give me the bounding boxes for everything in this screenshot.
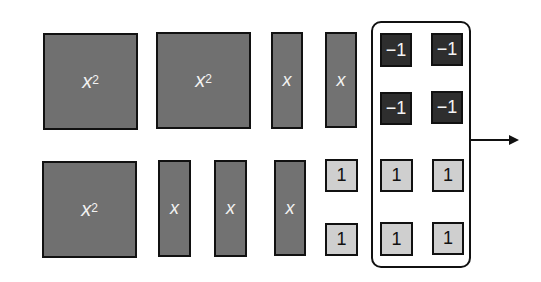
- tile-label: −1: [437, 97, 458, 118]
- tile-label: 1: [391, 165, 401, 186]
- negative-one-tile-2: −1: [431, 33, 463, 66]
- one-tile-2: 1: [380, 159, 413, 192]
- one-tile-4: 1: [325, 223, 358, 256]
- one-tile-3: 1: [432, 159, 464, 192]
- arrow-shaft: [471, 139, 511, 141]
- x-squared-tile-1: x2: [43, 33, 138, 130]
- tile-label: x: [283, 70, 292, 91]
- tile-label: x: [170, 198, 179, 219]
- x-squared-tile-3: x2: [42, 161, 137, 258]
- x-tile-3: x: [158, 160, 191, 257]
- tile-exponent: 2: [92, 73, 99, 87]
- one-tile-6: 1: [432, 222, 464, 255]
- tile-label: −1: [386, 98, 407, 119]
- tile-label: 1: [336, 229, 346, 250]
- x-tile-2: x: [325, 32, 357, 128]
- tile-label: x: [226, 198, 235, 219]
- tile-label: x: [337, 70, 346, 91]
- tile-label: 1: [391, 229, 401, 250]
- x-tile-4: x: [214, 160, 247, 257]
- tile-label: x: [195, 69, 205, 92]
- arrow-right-icon: [509, 135, 519, 145]
- tile-label: x: [286, 198, 295, 219]
- tile-label: x: [82, 70, 92, 93]
- tile-label: 1: [336, 165, 346, 186]
- tile-exponent: 2: [205, 72, 212, 86]
- tile-label: −1: [386, 40, 407, 61]
- tile-exponent: 2: [91, 201, 98, 215]
- tile-label: x: [81, 198, 91, 221]
- tile-label: −1: [437, 39, 458, 60]
- x-tile-1: x: [271, 32, 303, 129]
- negative-one-tile-3: −1: [380, 92, 412, 125]
- x-squared-tile-2: x2: [156, 32, 251, 129]
- tile-label: 1: [443, 228, 453, 249]
- tile-label: 1: [443, 165, 453, 186]
- one-tile-1: 1: [325, 159, 358, 192]
- x-tile-5: x: [274, 160, 306, 256]
- negative-one-tile-4: −1: [431, 91, 463, 124]
- one-tile-5: 1: [380, 222, 413, 256]
- negative-one-tile-1: −1: [380, 33, 412, 67]
